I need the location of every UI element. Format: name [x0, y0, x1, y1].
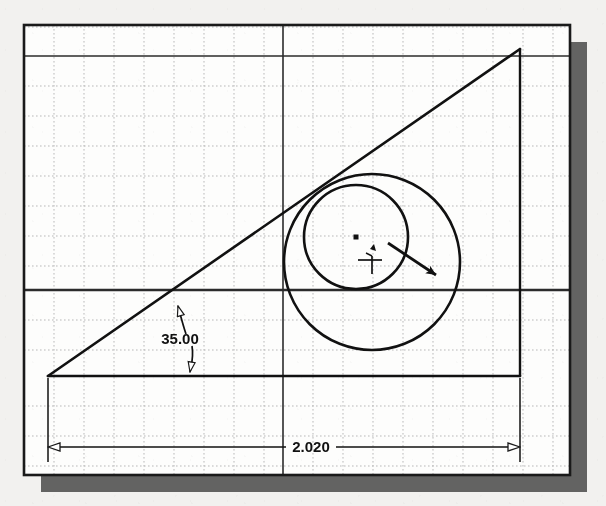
circle-center-point[interactable] — [354, 235, 359, 240]
linear-dimension-value[interactable]: 2.020 — [292, 438, 330, 455]
drawing-panel[interactable] — [24, 25, 570, 475]
cad-viewport[interactable]: 35.00 2.020 — [0, 0, 606, 506]
angular-dimension-value[interactable]: 35.00 — [161, 330, 199, 347]
sketch-canvas[interactable]: 35.00 2.020 — [0, 0, 606, 506]
